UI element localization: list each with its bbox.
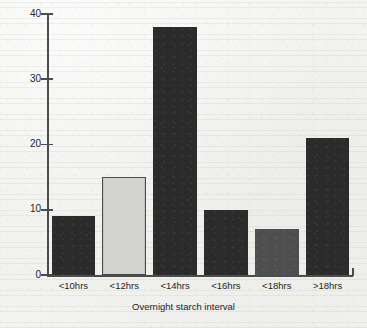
x-tick-label-<10hrs: <10hrs [48,281,99,291]
bar-texture [153,27,197,275]
bar->18hrs [306,138,350,275]
bar-chart: 010203040 <10hrs<12hrs<14hrs<16hrs<18hrs… [0,0,367,328]
bar-texture [306,138,350,275]
x-tick-label-<12hrs: <12hrs [99,281,150,291]
y-tick-label-30: 30 [15,74,41,84]
x-tick-label-<16hrs: <16hrs [201,281,252,291]
y-tick-label-10: 10 [15,204,41,214]
x-axis-line [47,275,353,277]
x-tick-label->18hrs: >18hrs [302,281,353,291]
x-axis-title: Overnight starch interval [0,301,367,312]
y-tick-label-40: 40 [15,9,41,19]
y-tick-label-0: 0 [15,270,41,280]
bar-<16hrs [204,210,248,275]
bar-texture [204,210,248,275]
x-tick-label-<18hrs: <18hrs [251,281,302,291]
bar-texture [102,177,146,275]
x-tick-label-<14hrs: <14hrs [150,281,201,291]
plot-area [48,14,353,275]
bar-<18hrs [255,229,299,275]
bar-<12hrs [102,177,146,275]
bar-<14hrs [153,27,197,275]
bar-<10hrs [52,216,96,275]
y-tick-label-20: 20 [15,139,41,149]
bar-texture [52,216,96,275]
bar-texture [255,229,299,275]
